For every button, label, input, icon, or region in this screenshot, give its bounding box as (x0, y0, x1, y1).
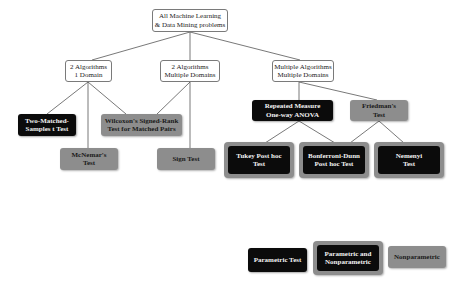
legend-parametric: Parametric Test (248, 248, 307, 272)
test-bonferroni-dunn: Bonferroni-Dunn Post hoc Test (299, 142, 369, 178)
test-label: Two-Matched- Samples t Test (25, 117, 69, 134)
test-label: Sign Test (172, 155, 199, 164)
test-label: Bonferroni-Dunn Post hoc Test (308, 152, 360, 169)
legend-parametric-and-nonparametric: Parametric and Nonparametric (313, 241, 383, 275)
test-label: Friedman's Test (362, 102, 396, 119)
test-label: Tukey Post hoc Test (236, 152, 281, 169)
test-label: McNemar's Test (72, 151, 107, 168)
test-label: Wilcoxon's Signed-Rank Test for Matched … (105, 117, 179, 134)
category-label: 2 Algorithms Multiple Domains (164, 63, 215, 80)
test-friedman: Friedman's Test (350, 100, 408, 121)
test-mcnemar: McNemar's Test (60, 148, 118, 170)
category-label: Multiple Algorithms Multiple Domains (274, 63, 331, 80)
category-label: 2 Algorithms 1 Domain (70, 63, 107, 80)
test-repeated-measure-anova: Repeated Measure One-way ANOVA (252, 100, 333, 121)
category-2-algorithms-multiple-domains: 2 Algorithms Multiple Domains (160, 60, 220, 82)
test-label: Nemenyi Test (396, 152, 422, 169)
legend-label: Nonparametric (394, 253, 440, 262)
legend-label: Parametric and Nonparametric (325, 250, 372, 267)
legend-nonparametric: Nonparametric (388, 246, 446, 268)
root-label: All Machine Learning & Data Mining probl… (155, 12, 226, 29)
test-label: Repeated Measure One-way ANOVA (265, 102, 321, 119)
legend-label: Parametric Test (254, 256, 302, 265)
category-2-algorithms-1-domain: 2 Algorithms 1 Domain (65, 60, 112, 82)
test-nemenyi: Nemenyi Test (374, 142, 444, 178)
test-two-matched-samples-t: Two-Matched- Samples t Test (18, 114, 76, 136)
test-wilcoxon-signed-rank: Wilcoxon's Signed-Rank Test for Matched … (101, 114, 182, 136)
test-tukey-post-hoc: Tukey Post hoc Test (224, 142, 294, 178)
test-sign: Sign Test (157, 148, 215, 170)
root-node: All Machine Learning & Data Mining probl… (152, 9, 228, 32)
category-multiple-algorithms-multiple-domains: Multiple Algorithms Multiple Domains (272, 60, 334, 82)
